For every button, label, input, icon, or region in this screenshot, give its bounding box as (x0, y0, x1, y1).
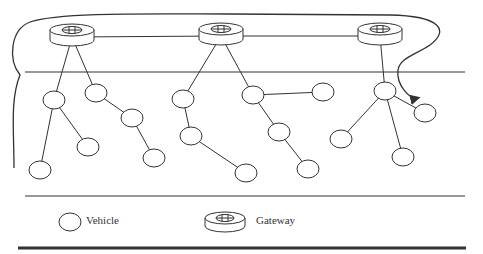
vehicles (29, 82, 436, 182)
network-diagram (0, 0, 483, 254)
vehicle-node (121, 109, 143, 127)
legend-vehicle-label: Vehicle (86, 214, 119, 226)
vehicle-node (172, 90, 194, 108)
vehicle-node (77, 138, 99, 156)
vehicle-node (392, 148, 414, 166)
vehicle-node (297, 160, 319, 178)
vehicle-node (180, 127, 202, 145)
legend-vehicle-icon (59, 213, 81, 231)
link-line (40, 100, 54, 170)
gateways (50, 23, 402, 46)
gateway-icon (358, 23, 402, 45)
link-line (385, 91, 403, 157)
vehicle-node (414, 104, 436, 122)
vehicle-node (330, 130, 352, 148)
vehicle-node (312, 83, 334, 101)
vehicle-node (43, 91, 65, 109)
vehicle-node (85, 84, 107, 102)
links (40, 36, 425, 173)
vehicle-node (374, 82, 396, 100)
legend-gateway-icon (205, 212, 245, 232)
vehicle-node (268, 123, 290, 141)
vehicle-node (235, 164, 257, 182)
link-line (183, 36, 221, 99)
gateway-icon (50, 24, 94, 46)
gateway-icon (199, 23, 243, 45)
legend-gateway-label: Gateway (256, 214, 295, 226)
vehicle-node (143, 149, 165, 167)
vehicle-node (29, 161, 51, 179)
vehicle-node (242, 86, 264, 104)
